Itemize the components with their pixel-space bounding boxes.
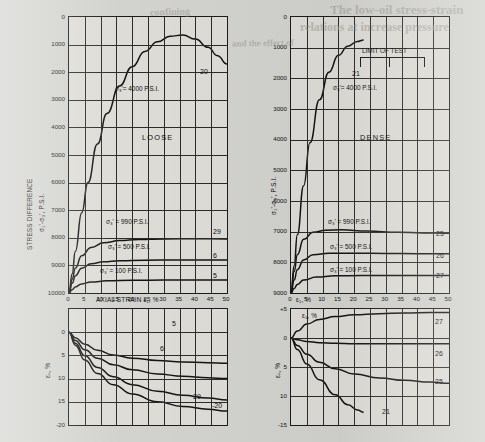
- ytick-dense-stress-strain-8: 8000: [260, 258, 287, 265]
- ytick-loose-stress-strain-8: 8000: [38, 233, 65, 240]
- loose-panel-title: LOOSE: [142, 133, 173, 142]
- limit-of-test-tick-right: [424, 58, 425, 67]
- ytick-dense-stress-strain-7: 7000: [260, 227, 287, 234]
- dense-vol-curve-label-26: 26: [435, 350, 443, 357]
- ytick-dense-stress-strain-0: 0: [260, 13, 287, 20]
- ytick-loose-volumetric-strain-5: -20: [38, 421, 65, 428]
- loose-curve-label-5: 5: [213, 272, 217, 279]
- limit-of-test-tick-mid: [389, 58, 390, 67]
- xtick-dense-stress-strain-7: 35: [396, 295, 406, 302]
- gridline-h-1: [69, 332, 227, 333]
- gridline-h-7: [69, 210, 227, 211]
- limit-of-test-rule: [360, 57, 425, 58]
- dense-panel-title: DENSE: [360, 133, 391, 142]
- gridline-h-5: [69, 155, 227, 156]
- limit-of-test-tick-left: [360, 58, 361, 67]
- gridline-v-5: [370, 17, 371, 293]
- ytick-loose-volumetric-strain-1: 0: [38, 328, 65, 335]
- xtick-dense-stress-strain-10: 50: [443, 295, 453, 302]
- xtick-loose-stress-strain-5: 25: [142, 295, 152, 302]
- gridline-h-6: [69, 183, 227, 184]
- dense-sigma-100-label: σ₃' = 100 P.S.I.: [330, 266, 372, 273]
- loose-vol-curve-label-6: 6: [160, 345, 164, 352]
- gridline-v-3: [116, 309, 117, 425]
- gridline-h-2: [69, 355, 227, 356]
- chart-loose-stress-strain: [68, 16, 228, 294]
- xtick-dense-stress-strain-4: 20: [348, 295, 358, 302]
- xtick-dense-stress-strain-5: 25: [364, 295, 374, 302]
- gridline-h-2: [291, 78, 449, 79]
- gridline-h-4: [69, 402, 227, 403]
- ytick-loose-stress-strain-0: 0: [38, 13, 65, 20]
- loose-y-axis-title: STRESS DIFFERENCE: [26, 178, 33, 250]
- loose-y-axis-symbol: σ₁'-σ₃', P.S.I.: [38, 193, 45, 232]
- gridline-h-3: [69, 379, 227, 380]
- ytick-dense-volumetric-strain-3: 10: [260, 392, 287, 399]
- xtick-dense-stress-strain-8: 40: [411, 295, 421, 302]
- dense-vol-curve-label-21: 21: [382, 408, 390, 415]
- ytick-loose-stress-strain-4: 4000: [38, 123, 65, 130]
- gridline-v-8: [417, 17, 418, 293]
- dense-vol-x-axis-title: ε₁, %: [302, 312, 317, 319]
- dense-sigma-500-label: σ₃' = 500 P.S.I.: [330, 243, 372, 250]
- xtick-loose-stress-strain-3: 15: [110, 295, 120, 302]
- xtick-loose-stress-strain-8: 40: [189, 295, 199, 302]
- ytick-dense-stress-strain-3: 3000: [260, 105, 287, 112]
- loose-curve-label-29: 29: [213, 228, 221, 235]
- ytick-dense-volumetric-strain-4: -15: [260, 421, 287, 428]
- xtick-dense-stress-strain-1: 5: [301, 295, 311, 302]
- xtick-dense-stress-strain-2: 10: [317, 295, 327, 302]
- loose-curve-label-20: 20: [200, 68, 208, 75]
- ytick-dense-volumetric-strain-2: 5: [260, 363, 287, 370]
- xtick-loose-stress-strain-0: 0: [63, 295, 73, 302]
- dense-sigma-990-label: σ₃' = 990 P.S.I.: [328, 218, 370, 225]
- xtick-loose-stress-strain-4: 20: [126, 295, 136, 302]
- gridline-v-9: [433, 17, 434, 293]
- ytick-dense-stress-strain-6: 6000: [260, 197, 287, 204]
- gridline-h-3: [291, 109, 449, 110]
- bleed-through-line-4: confining: [150, 5, 190, 17]
- gridline-v-6: [164, 309, 165, 425]
- loose-sigma-100-label: σ₃' = 100 P.S.I.: [100, 267, 142, 274]
- gridline-h-9: [69, 265, 227, 266]
- xtick-loose-stress-strain-6: 30: [158, 295, 168, 302]
- ytick-loose-stress-strain-7: 7000: [38, 206, 65, 213]
- chart-dense-volumetric: [290, 308, 450, 426]
- ytick-loose-volumetric-strain-4: 15: [38, 397, 65, 404]
- gridline-v-1: [85, 309, 86, 425]
- loose-vol-curve-label-20: -20: [212, 402, 222, 409]
- ytick-loose-stress-strain-9: 9000: [38, 261, 65, 268]
- xtick-dense-stress-strain-9: 45: [427, 295, 437, 302]
- gridline-h-7: [291, 232, 449, 233]
- bleed-through-line-2: relations at increase pressure: [300, 20, 449, 35]
- gridline-h-4: [69, 127, 227, 128]
- gridline-v-2: [101, 309, 102, 425]
- loose-vol-curve-label-29: 29: [193, 393, 201, 400]
- gridline-h-3: [291, 396, 449, 397]
- dense-curve-label-26: 26: [436, 252, 444, 259]
- gridline-v-1: [307, 17, 308, 293]
- gridline-h-3: [69, 100, 227, 101]
- gridline-v-8: [195, 309, 196, 425]
- ytick-loose-stress-strain-10: 10000: [38, 289, 65, 296]
- gridline-h-1: [291, 338, 449, 339]
- gridline-v-7: [180, 309, 181, 425]
- dense-curve-label-21: 21: [352, 70, 360, 77]
- gridline-v-7: [402, 17, 403, 293]
- loose-vol-curve-label-5: 5: [172, 320, 176, 327]
- xtick-dense-stress-strain-3: 15: [332, 295, 342, 302]
- gridline-v-3: [338, 17, 339, 293]
- xtick-loose-stress-strain-10: 50: [221, 295, 231, 302]
- gridline-h-6: [291, 201, 449, 202]
- gridline-v-5: [148, 309, 149, 425]
- gridline-h-5: [291, 170, 449, 171]
- loose-sigma-4000-label: σ₃'= 4000 P.S.I.: [115, 85, 159, 92]
- ytick-loose-stress-strain-6: 6000: [38, 178, 65, 185]
- gridline-v-2: [323, 17, 324, 293]
- ytick-loose-volumetric-strain-3: 10: [38, 374, 65, 381]
- gridline-v-6: [386, 17, 387, 293]
- loose-curve-label-6: 6: [213, 252, 217, 259]
- xtick-dense-stress-strain-6: 30: [380, 295, 390, 302]
- gridline-h-1: [69, 45, 227, 46]
- ytick-loose-volumetric-strain-2: 5: [38, 351, 65, 358]
